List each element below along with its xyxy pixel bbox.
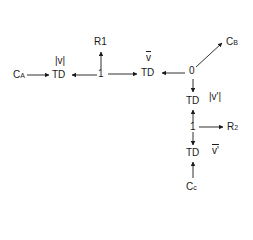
annotation-v-bar: v [146,53,151,63]
node-r1: R1 [94,37,107,47]
node-td2: TD [141,68,154,78]
node-junction-1: 1 [98,69,104,79]
annotation-abs-v: |v| [55,56,65,66]
node-td3: TD [186,96,199,106]
node-r2: R2 [227,122,238,133]
node-ca-sub: A [20,72,25,79]
node-cb: CB [226,37,238,48]
node-cc-sub: c [193,184,197,191]
edge-j0-cb [196,43,222,67]
node-r2-sub: 2 [234,124,238,131]
node-cb-sub: B [233,39,238,46]
node-ca: CA [13,70,25,81]
annotation-abs-v-prime: |v'| [209,92,221,102]
node-junction-1b: 1 [190,122,196,132]
node-td4: TD [186,148,199,158]
node-junction-0: 0 [189,66,195,76]
node-cc: Cc [186,182,197,193]
node-td1: TD [52,70,65,80]
annotation-v-prime-bar: v' [212,146,219,156]
